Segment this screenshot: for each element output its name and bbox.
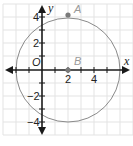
y-tick-label-4: 4 xyxy=(33,11,39,23)
point-a xyxy=(65,12,70,17)
x-tick-label-2: 2 xyxy=(65,73,71,85)
point-b-label: B xyxy=(74,55,81,67)
point-a-label: A xyxy=(73,3,81,15)
x-tick-label-4: 4 xyxy=(91,73,97,85)
y-axis-label: y xyxy=(47,1,54,15)
y-tick-label-neg2: −2 xyxy=(27,90,40,102)
x-axis-label: x xyxy=(123,54,130,68)
y-tick-label-2: 2 xyxy=(33,37,39,49)
coordinate-plane: y x O 2 4 4 2 −2 −4 A B xyxy=(0,0,133,146)
point-b xyxy=(65,67,70,72)
y-tick-label-neg4: −4 xyxy=(27,116,40,128)
origin-label: O xyxy=(32,56,41,68)
